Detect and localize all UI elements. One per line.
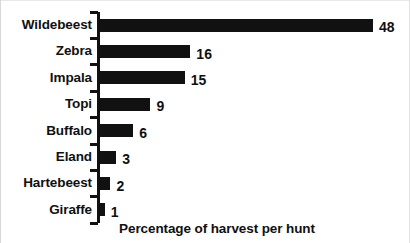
bar	[99, 98, 150, 111]
chart-row: Impala15	[0, 65, 410, 91]
chart-row: Eland3	[0, 144, 410, 170]
bar	[99, 45, 190, 58]
bar-value-label: 3	[122, 152, 130, 166]
category-label: Topi	[0, 91, 92, 117]
bar-value-label: 48	[379, 20, 395, 34]
bar	[99, 124, 133, 137]
bar-value-label: 9	[156, 99, 164, 113]
chart-row: Wildebeest48	[0, 12, 410, 38]
bar	[99, 177, 110, 190]
bar	[99, 71, 185, 84]
bar	[99, 19, 373, 32]
chart-row: Buffalo6	[0, 118, 410, 144]
chart-row: Zebra16	[0, 38, 410, 64]
category-label: Zebra	[0, 38, 92, 64]
category-label: Giraffe	[0, 197, 92, 223]
bar	[99, 151, 116, 164]
category-label: Wildebeest	[0, 12, 92, 38]
category-label: Impala	[0, 65, 92, 91]
category-label: Buffalo	[0, 118, 92, 144]
bar-value-label: 1	[111, 205, 119, 219]
bar-value-label: 15	[191, 73, 207, 87]
bar-value-label: 6	[139, 126, 147, 140]
bar-value-label: 16	[196, 47, 212, 61]
category-label: Hartebeest	[0, 170, 92, 196]
bar	[99, 203, 105, 216]
bar-chart-figure: Wildebeest48Zebra16Impala15Topi9Buffalo6…	[0, 0, 410, 243]
scan-edge-top	[0, 0, 410, 1]
bar-value-label: 2	[116, 179, 124, 193]
chart-row: Giraffe1	[0, 197, 410, 223]
category-label: Eland	[0, 144, 92, 170]
chart-row: Topi9	[0, 91, 410, 117]
chart-row: Hartebeest2	[0, 170, 410, 196]
x-axis-title: Percentage of harvest per hunt	[0, 221, 410, 236]
